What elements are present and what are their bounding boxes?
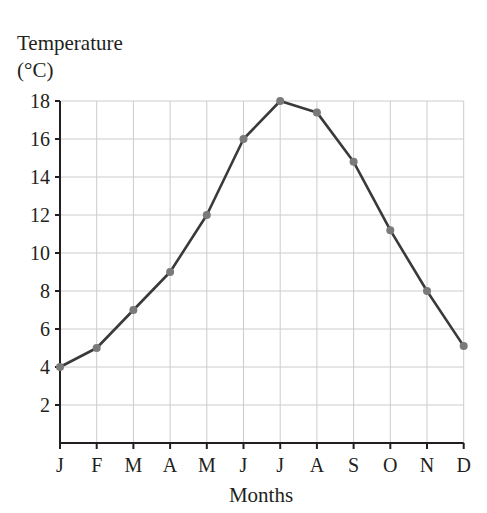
- y-tick-label: 2: [40, 394, 50, 416]
- x-tick-label: A: [163, 454, 178, 476]
- data-point-marker: [166, 268, 174, 276]
- y-tick-label: 12: [30, 204, 50, 226]
- y-tick-label: 16: [30, 128, 50, 150]
- data-point-marker: [240, 135, 248, 143]
- grid-lines: [60, 101, 464, 443]
- x-tick-label: D: [456, 454, 470, 476]
- data-point-marker: [56, 363, 64, 371]
- data-point-marker: [460, 342, 468, 350]
- data-point-marker: [423, 287, 431, 295]
- x-tick-label: N: [420, 454, 434, 476]
- y-tick-label: 4: [40, 356, 50, 378]
- y-tick-label: 14: [30, 166, 50, 188]
- x-axis-ticks: JFMAMJJASOND: [56, 443, 471, 476]
- line-chart: 24681012141618 JFMAMJJASOND Months: [0, 0, 487, 513]
- x-tick-label: A: [310, 454, 325, 476]
- data-point-marker: [276, 97, 284, 105]
- data-point-marker: [313, 108, 321, 116]
- data-series: [56, 97, 468, 371]
- x-tick-label: J: [240, 454, 248, 476]
- x-tick-label: F: [91, 454, 102, 476]
- x-axis-title: Months: [229, 483, 293, 507]
- y-tick-label: 10: [30, 242, 50, 264]
- temperature-line: [60, 101, 464, 367]
- data-point-marker: [93, 344, 101, 352]
- y-tick-label: 8: [40, 280, 50, 302]
- x-tick-label: S: [348, 454, 359, 476]
- y-tick-label: 18: [30, 90, 50, 112]
- data-point-marker: [386, 226, 394, 234]
- y-axis-ticks: 24681012141618: [30, 90, 60, 416]
- data-point-marker: [350, 158, 358, 166]
- x-tick-label: M: [198, 454, 216, 476]
- data-point-marker: [203, 211, 211, 219]
- x-tick-label: J: [276, 454, 284, 476]
- y-tick-label: 6: [40, 318, 50, 340]
- x-tick-label: M: [125, 454, 143, 476]
- axes: [59, 101, 464, 443]
- data-point-marker: [129, 306, 137, 314]
- x-tick-label: O: [383, 454, 397, 476]
- x-tick-label: J: [56, 454, 64, 476]
